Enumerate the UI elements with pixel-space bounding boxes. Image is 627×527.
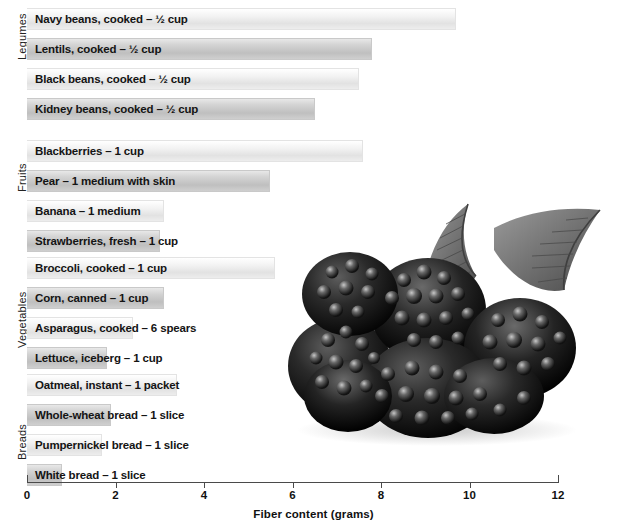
x-tick-label: 12	[552, 489, 565, 501]
x-tick-label: 10	[463, 489, 476, 501]
bar-label: Kidney beans, cooked – ½ cup	[35, 98, 198, 120]
bar-label: Pear – 1 medium with skin	[35, 170, 175, 192]
bar-label: Asparagus, cooked – 6 spears	[35, 317, 196, 339]
fiber-content-bar-chart: Legumes Fruits Vegetables Breads Navy be…	[0, 0, 627, 527]
x-tick	[116, 483, 117, 488]
x-axis-title: Fiber content (grams)	[0, 508, 627, 520]
bar-label: Lettuce, iceberg – 1 cup	[35, 347, 162, 369]
x-tick	[470, 483, 471, 488]
bar-label: Pumpernickel bread – 1 slice	[35, 434, 189, 456]
bar-label: Banana – 1 medium	[35, 200, 140, 222]
x-tick-label: 6	[289, 489, 295, 501]
x-tick	[381, 483, 382, 488]
bar-label: Black beans, cooked – ½ cup	[35, 68, 191, 90]
bar-label: Whole-wheat bread – 1 slice	[35, 404, 184, 426]
bar-label: Lentils, cooked – ½ cup	[35, 38, 161, 60]
x-tick-label: 4	[201, 489, 207, 501]
bar-label: Navy beans, cooked – ½ cup	[35, 8, 188, 30]
bar-label: Corn, canned – 1 cup	[35, 287, 148, 309]
bar-label: Broccoli, cooked – 1 cup	[35, 257, 167, 279]
x-tick	[204, 483, 205, 488]
plot-area: Navy beans, cooked – ½ cupLentils, cooke…	[27, 0, 558, 482]
x-tick-label: 0	[24, 489, 30, 501]
bar-label: Blackberries – 1 cup	[35, 140, 144, 162]
x-tick-label: 8	[378, 489, 384, 501]
bar-label: Oatmeal, instant – 1 packet	[35, 374, 179, 396]
bar-label: Strawberries, fresh – 1 cup	[35, 230, 178, 252]
x-tick-label: 2	[112, 489, 118, 501]
x-tick	[293, 483, 294, 488]
x-axis-cap-left	[27, 475, 28, 483]
x-axis-cap-right	[558, 475, 559, 483]
